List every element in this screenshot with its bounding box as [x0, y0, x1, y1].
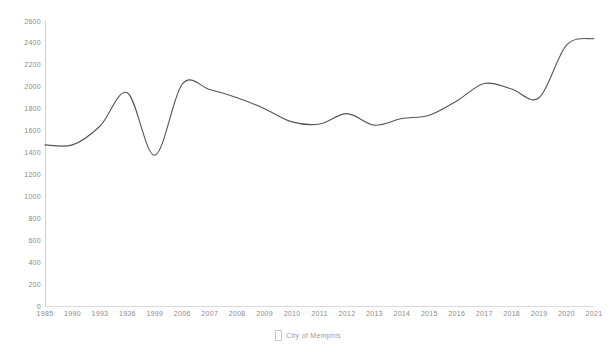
- y-axis-tick-label: 0: [5, 303, 41, 310]
- x-axis-tick-label: 2010: [284, 310, 301, 317]
- y-axis-tick-label: 1800: [5, 105, 41, 112]
- series-line-path: [45, 38, 594, 155]
- x-axis-tick-label: 1990: [64, 310, 81, 317]
- series-city-of-memphis: [45, 21, 594, 306]
- line-chart: 0200400600800100012001400160018002000220…: [0, 0, 616, 355]
- x-axis-tick-label: 2017: [476, 310, 493, 317]
- y-axis-tick-label: 600: [5, 237, 41, 244]
- x-axis-tick-label: 2007: [201, 310, 218, 317]
- x-axis-tick-label: 2015: [421, 310, 438, 317]
- x-axis-tick-label: 2014: [393, 310, 410, 317]
- x-axis-tick-label: 2006: [174, 310, 191, 317]
- y-axis-tick-label: 1200: [5, 171, 41, 178]
- y-axis-tick-label: 1000: [5, 193, 41, 200]
- x-axis-line: [45, 306, 594, 307]
- x-axis-tick-label: 2020: [558, 310, 575, 317]
- y-axis-tick-label: 1600: [5, 127, 41, 134]
- x-axis-tick-label: 1993: [92, 310, 109, 317]
- y-axis-tick-label: 2600: [5, 18, 41, 25]
- plot-area: [45, 21, 594, 306]
- x-axis-tick-label: 2008: [229, 310, 246, 317]
- x-axis-tick-label: 2013: [366, 310, 383, 317]
- x-axis-tick-label: 2021: [586, 310, 603, 317]
- x-axis-tick-label: 2011: [311, 310, 327, 317]
- y-axis-tick-label: 2200: [5, 61, 41, 68]
- y-axis-tick-label: 1400: [5, 149, 41, 156]
- y-axis-tick-labels: 0200400600800100012001400160018002000220…: [0, 0, 41, 355]
- x-axis-tick-label: 2012: [339, 310, 356, 317]
- chart-legend: City of Memphis: [0, 330, 616, 341]
- x-axis-tick-label: 2018: [503, 310, 520, 317]
- x-axis-tick-label: 1985: [37, 310, 54, 317]
- x-axis-tick-label: 2019: [531, 310, 548, 317]
- x-axis-tick-label: 1999: [146, 310, 163, 317]
- x-axis-tick-label: 2016: [448, 310, 465, 317]
- y-axis-tick-label: 2000: [5, 83, 41, 90]
- legend-item-label: City of Memphis: [286, 332, 341, 339]
- x-axis-tick-label: 1936: [119, 310, 136, 317]
- y-axis-tick-label: 200: [5, 281, 41, 288]
- square-outline-marker-icon: [275, 330, 282, 341]
- x-axis-tick-label: 2009: [256, 310, 273, 317]
- y-axis-tick-label: 400: [5, 259, 41, 266]
- y-axis-tick-label: 800: [5, 215, 41, 222]
- y-axis-tick-label: 2400: [5, 39, 41, 46]
